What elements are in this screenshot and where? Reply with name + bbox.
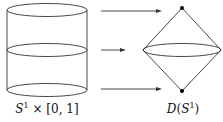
top-arrow: [101, 9, 162, 13]
disk-label: D(S1): [166, 101, 199, 116]
cylinder-top-circle: [7, 4, 87, 17]
cylinder-bottom-circle: [7, 84, 87, 97]
cylinder-label: S1 × [0, 1]: [15, 101, 78, 116]
middle-arrow: [101, 48, 126, 52]
double-cone: [143, 8, 221, 91]
cone-bottom-apex-dot: [180, 89, 184, 93]
arrows: [101, 9, 162, 91]
diagram-canvas: S1 × [0, 1] D(S1): [0, 0, 223, 122]
cylinder: [7, 4, 87, 97]
cylinder-middle-circle: [7, 44, 87, 57]
cone-top-apex-dot: [180, 6, 184, 10]
cone-equator-circle: [143, 44, 221, 57]
bottom-arrow: [101, 87, 162, 91]
